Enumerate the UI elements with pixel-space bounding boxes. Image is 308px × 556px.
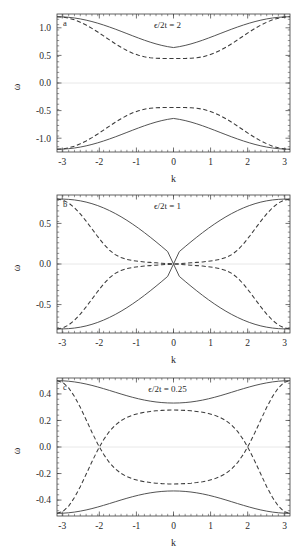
panel-title: ϵ/2t = 1: [154, 201, 181, 211]
x-tick-label: -2: [95, 521, 103, 531]
panel-letter: b: [63, 199, 67, 209]
x-tick-label: 0: [171, 338, 176, 348]
x-tick-label: 3: [282, 338, 287, 348]
x-tick-label: -3: [58, 157, 66, 167]
y-tick-label: 0.4: [39, 389, 51, 399]
y-tick-label: -0.5: [36, 106, 51, 116]
y-axis-label: ω: [11, 83, 22, 90]
x-tick-label: -1: [132, 521, 140, 531]
panel-letter: a: [63, 18, 67, 28]
y-tick-label: 1.0: [39, 23, 51, 33]
plot-a: -3-2-10123-1.0-0.50.00.51.0aϵ/2t = 2kω: [0, 6, 308, 188]
curve-dashed-down-cross: [57, 381, 290, 484]
x-tick-label: -1: [132, 338, 140, 348]
x-axis-label: k: [171, 537, 176, 548]
x-tick-label: 2: [245, 157, 250, 167]
x-tick-label: 0: [171, 521, 176, 531]
x-tick-label: -3: [58, 521, 66, 531]
panel-a: -3-2-10123-1.0-0.50.00.51.0aϵ/2t = 2kω: [0, 6, 308, 188]
y-tick-label: -0.4: [36, 495, 51, 505]
x-tick-label: 1: [208, 338, 213, 348]
y-tick-label: 0.0: [39, 442, 51, 452]
y-axis-label: ω: [11, 264, 22, 271]
curve-lower-band-dashed: [57, 108, 290, 150]
x-tick-label: 2: [245, 338, 250, 348]
y-tick-label: -1.0: [36, 134, 51, 144]
curve-lower-band-solid: [57, 491, 290, 513]
x-tick-label: -1: [132, 157, 140, 167]
x-tick-label: 0: [171, 157, 176, 167]
panel-letter: c: [63, 382, 67, 392]
y-tick-label: -0.2: [36, 469, 51, 479]
panel-c: -3-2-10123-0.4-0.20.00.20.4cϵ/2t = 0.25k…: [0, 370, 308, 552]
x-tick-label: 1: [208, 157, 213, 167]
x-tick-label: -3: [58, 338, 66, 348]
y-tick-label: 0.0: [39, 259, 51, 269]
x-tick-label: -2: [95, 338, 103, 348]
y-axis-label: ω: [11, 447, 22, 454]
panel-b: -3-2-10123-0.50.00.5bϵ/2t = 1kω: [0, 187, 308, 369]
figure-three-panel-band-structure: -3-2-10123-1.0-0.50.00.51.0aϵ/2t = 2kω -…: [0, 0, 308, 556]
x-axis-label: k: [171, 173, 176, 184]
plot-b: -3-2-10123-0.50.00.5bϵ/2t = 1kω: [0, 187, 308, 369]
x-axis-label: k: [171, 354, 176, 365]
plot-c: -3-2-10123-0.4-0.20.00.20.4cϵ/2t = 0.25k…: [0, 370, 308, 552]
panel-title: ϵ/2t = 0.25: [148, 384, 187, 394]
y-tick-label: 0.5: [39, 51, 51, 61]
y-tick-label: 0.0: [39, 78, 51, 88]
x-tick-label: 3: [282, 521, 287, 531]
curve-dashed-up-cross: [57, 410, 290, 513]
x-tick-label: 2: [245, 521, 250, 531]
y-tick-label: 0.5: [39, 219, 51, 229]
x-tick-label: 3: [282, 157, 287, 167]
panel-title: ϵ/2t = 2: [154, 20, 181, 30]
y-tick-label: -0.5: [36, 300, 51, 310]
x-tick-label: 1: [208, 521, 213, 531]
y-tick-label: 0.2: [39, 416, 51, 426]
x-tick-label: -2: [95, 157, 103, 167]
curve-lower-band-solid: [57, 118, 290, 149]
